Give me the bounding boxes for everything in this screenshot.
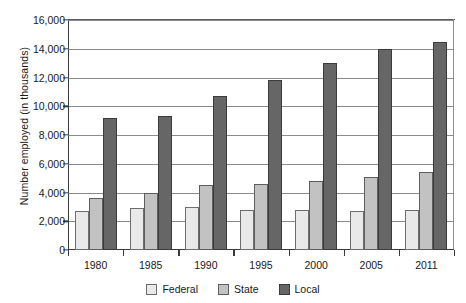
bar-federal-2005 <box>350 211 364 250</box>
bar-state-2005 <box>364 177 378 250</box>
y-tick-label: 2,000 <box>39 215 65 227</box>
legend-swatch-local <box>279 284 290 295</box>
chart-legend: FederalStateLocal <box>0 283 466 295</box>
bar-group <box>289 20 344 250</box>
bar-federal-1980 <box>75 211 89 250</box>
bar-state-2000 <box>309 181 323 250</box>
bar-local-2011 <box>433 42 447 250</box>
bar-federal-1990 <box>185 207 199 250</box>
bar-state-1990 <box>199 185 213 250</box>
x-tick-mark <box>399 250 400 256</box>
x-tick-label: 1995 <box>249 259 272 271</box>
y-tick-label: 10,000 <box>33 100 65 112</box>
bar-state-2011 <box>419 172 433 250</box>
bar-series-container <box>68 20 454 250</box>
x-tick-mark <box>233 250 234 256</box>
y-tick-label: 6,000 <box>39 158 65 170</box>
y-axis-title: Number employed (in thousands) <box>18 16 30 236</box>
legend-item-local: Local <box>279 283 320 295</box>
bar-federal-1995 <box>240 210 254 250</box>
bar-group <box>68 20 123 250</box>
bar-group <box>233 20 288 250</box>
x-tick-mark <box>344 250 345 256</box>
bar-local-1980 <box>103 118 117 250</box>
x-tick-label: 2000 <box>304 259 327 271</box>
x-tick-label: 2005 <box>360 259 383 271</box>
y-tick-label: 16,000 <box>33 14 65 26</box>
bar-chart: Number employed (in thousands) 02,0004,0… <box>0 0 466 303</box>
bar-group <box>344 20 399 250</box>
bar-state-1985 <box>144 193 158 250</box>
bar-state-1980 <box>89 198 103 250</box>
bar-group <box>178 20 233 250</box>
legend-label: Local <box>295 283 320 295</box>
bar-group <box>123 20 178 250</box>
legend-swatch-state <box>218 284 229 295</box>
bar-local-2005 <box>378 49 392 250</box>
bar-local-2000 <box>323 63 337 250</box>
x-tick-label: 1980 <box>84 259 107 271</box>
y-tick-label: 14,000 <box>33 43 65 55</box>
legend-item-state: State <box>218 283 259 295</box>
y-tick-label: 0 <box>59 244 65 256</box>
x-tick-mark <box>123 250 124 256</box>
bar-federal-2011 <box>405 210 419 250</box>
x-tick-label: 2011 <box>415 259 438 271</box>
y-tick-label: 8,000 <box>39 129 65 141</box>
bar-local-1995 <box>268 80 282 250</box>
y-tick-label: 4,000 <box>39 187 65 199</box>
bar-local-1990 <box>213 96 227 250</box>
x-tick-label: 1985 <box>139 259 162 271</box>
bar-group <box>399 20 454 250</box>
bar-local-1985 <box>158 116 172 250</box>
legend-label: State <box>234 283 259 295</box>
legend-item-federal: Federal <box>146 283 198 295</box>
x-tick-mark <box>454 250 455 256</box>
bar-federal-2000 <box>295 210 309 250</box>
x-tick-mark <box>68 250 69 256</box>
x-tick-mark <box>289 250 290 256</box>
legend-swatch-federal <box>146 284 157 295</box>
y-tick-label: 12,000 <box>33 72 65 84</box>
legend-label: Federal <box>162 283 198 295</box>
bar-federal-1985 <box>130 208 144 250</box>
x-tick-mark <box>178 250 179 256</box>
x-tick-label: 1990 <box>194 259 217 271</box>
bar-state-1995 <box>254 184 268 250</box>
